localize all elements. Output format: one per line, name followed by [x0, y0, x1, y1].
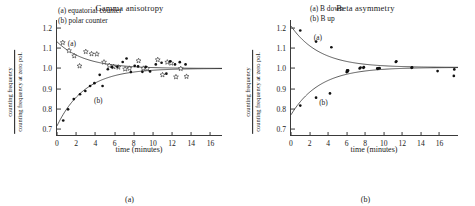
y-axis-tick-mark	[291, 128, 295, 129]
data-point-dot	[410, 66, 413, 69]
data-point-dot	[378, 67, 381, 70]
data-point-dot	[89, 85, 92, 88]
data-point-star	[60, 40, 65, 45]
y-axis-tick-label: 1.0	[43, 64, 58, 73]
data-point-star	[160, 72, 165, 77]
data-point-dot	[362, 66, 365, 69]
y-axis-tick-label: 0.7	[277, 124, 292, 133]
data-point-dot	[299, 29, 302, 32]
data-point-dot	[184, 63, 187, 66]
plot-wrapper: 0.70.80.91.01.11.20246810121416(a)(b) ti…	[28, 20, 226, 158]
y-axis-label-denominator: counting frequency at zero pol.	[16, 50, 24, 134]
data-point-dot	[84, 90, 87, 93]
data-point-dot	[347, 69, 350, 72]
fit-curve	[57, 42, 222, 69]
y-axis-tick-label: 1.2	[43, 24, 58, 33]
y-axis-tick-label: 0.9	[43, 84, 58, 93]
data-point-dot	[72, 98, 75, 101]
y-axis-tick-label: 0.8	[277, 104, 292, 113]
x-axis-tick-mark	[309, 132, 310, 136]
legend-entry-a: (a) equatorial counter	[58, 6, 122, 16]
x-axis-tick-mark	[76, 132, 77, 136]
panel-gamma-anisotropy: Gamma anisotropy counting frequency coun…	[0, 0, 237, 206]
data-point-dot	[452, 75, 455, 78]
data-point-dot	[174, 63, 177, 66]
x-axis-label: time (minutes)	[56, 145, 222, 154]
x-axis-tick-mark	[402, 132, 403, 136]
data-point-dot	[130, 71, 133, 74]
x-axis-tick-mark	[114, 132, 115, 136]
data-point-dot	[141, 71, 144, 74]
y-axis-label: counting frequency counting frequency at…	[242, 26, 264, 158]
plot-axes: 0.70.80.91.01.11.20246810121416(a)(b)	[290, 20, 458, 136]
x-axis-tick-mark	[291, 132, 292, 136]
fit-curve	[291, 68, 458, 115]
y-axis-tick-label: 1.2	[277, 24, 292, 33]
data-point-dot	[165, 72, 168, 75]
data-point-star	[184, 74, 189, 79]
y-axis-tick-mark	[291, 88, 295, 89]
data-point-dot	[299, 104, 302, 107]
data-point-dot	[395, 61, 398, 64]
data-point-star	[136, 58, 141, 63]
plot-area: 0.70.80.91.01.11.20246810121416(a)(b)	[57, 20, 222, 135]
panel-subcaption: (a)	[0, 195, 237, 204]
legend-entry-b: (b) B up	[310, 14, 343, 24]
x-axis-tick-mark	[191, 132, 192, 136]
legend: (a) equatorial counter (b) polar counter	[58, 6, 122, 26]
y-axis-label-numerator: counting frequency	[6, 50, 14, 134]
x-axis-tick-mark	[210, 132, 211, 136]
data-point-dot	[93, 82, 96, 85]
data-point-star	[94, 52, 99, 57]
curve-label-b: (b)	[319, 98, 328, 107]
x-axis-label: time (minutes)	[290, 145, 458, 154]
legend-entry-a: (a) B down	[310, 4, 343, 14]
figure-container: Gamma anisotropy counting frequency coun…	[0, 0, 475, 206]
data-point-star	[89, 51, 94, 56]
data-point-dot	[160, 61, 163, 64]
y-axis-tick-mark	[291, 108, 295, 109]
data-point-dot	[436, 70, 439, 73]
plot-axes: 0.70.80.91.01.11.20246810121416(a)(b)	[56, 20, 222, 136]
x-axis-tick-mark	[383, 132, 384, 136]
x-axis-tick-mark	[328, 132, 329, 136]
y-axis-tick-label: 1.1	[43, 44, 58, 53]
y-axis-label-numerator: counting frequency	[244, 50, 252, 134]
y-axis-tick-mark	[57, 88, 61, 89]
data-point-dot	[67, 108, 70, 111]
plot-wrapper: 0.70.80.91.01.11.20246810121416(a)(b) ti…	[262, 20, 462, 158]
data-point-dot	[116, 65, 119, 68]
data-point-dot	[101, 85, 104, 88]
x-axis-tick-mark	[95, 132, 96, 136]
data-point-star	[72, 53, 77, 58]
legend-entry-b: (b) polar counter	[58, 16, 122, 26]
y-axis-tick-mark	[57, 68, 61, 69]
data-point-dot	[330, 46, 333, 49]
y-axis-label-denominator: counting frequency at zero pol.	[254, 50, 262, 134]
data-point-dot	[144, 65, 147, 68]
x-axis-tick-mark	[365, 132, 366, 136]
data-point-dot	[154, 63, 157, 66]
data-point-dot	[79, 93, 82, 96]
x-axis-tick-mark	[152, 132, 153, 136]
data-point-dot	[178, 61, 181, 64]
y-axis-tick-label: 0.9	[277, 84, 292, 93]
data-point-star	[77, 63, 82, 68]
data-point-star	[155, 57, 160, 62]
data-point-star	[173, 74, 178, 79]
curve-label-a: (a)	[314, 33, 322, 42]
curve-label-b: (b)	[94, 95, 103, 104]
legend: (a) B down (b) B up	[310, 4, 343, 24]
y-axis-tick-mark	[57, 108, 61, 109]
y-axis-label: counting frequency counting frequency at…	[4, 26, 26, 158]
data-point-star	[123, 66, 128, 71]
data-point-dot	[169, 60, 172, 63]
data-point-star	[178, 66, 183, 71]
y-axis-tick-mark	[291, 48, 295, 49]
y-axis-tick-mark	[57, 28, 61, 29]
x-axis-tick-mark	[172, 132, 173, 136]
curve-label-a: (a)	[68, 38, 76, 47]
plot-area: 0.70.80.91.01.11.20246810121416(a)(b)	[291, 20, 458, 135]
panel-beta-asymmetry: Beta asymmetry counting frequency counti…	[238, 0, 475, 206]
panel-subcaption: (b)	[238, 195, 475, 204]
